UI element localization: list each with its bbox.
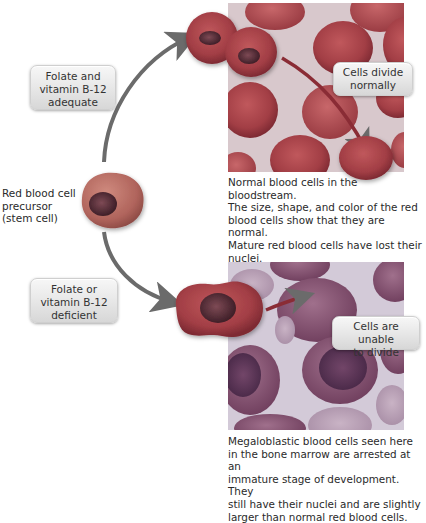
caption-normal-cells: Normal blood cells in the bloodstream. T…	[228, 176, 426, 264]
arrow-to-normal	[104, 38, 188, 162]
stem-cell-icon	[82, 173, 144, 228]
label-cells-divide-normally: Cells divide normally	[333, 62, 413, 96]
megaloblastic-cell-icon	[176, 282, 263, 337]
mature-rbc-icon	[339, 136, 393, 180]
label-cells-unable-to-divide: Cells are unable to divide	[332, 316, 420, 350]
stem-cell-label: Red blood cell precursor (stem cell)	[2, 187, 76, 225]
label-folate-deficient: Folate or vitamin B-12 deficient	[30, 278, 118, 323]
caption-megaloblastic-cells: Megaloblastic blood cells seen here in t…	[228, 435, 426, 523]
label-folate-adequate: Folate and vitamin B-12 adequate	[30, 65, 116, 110]
